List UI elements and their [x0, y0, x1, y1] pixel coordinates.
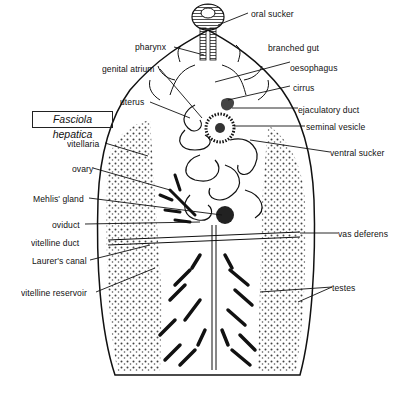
label-mehlis-gland: Mehlis' gland: [33, 193, 84, 204]
label-vas-deferens: vas deferens: [338, 228, 388, 239]
ovary: [160, 175, 195, 222]
pharynx: [200, 28, 206, 60]
label-vitellaria: vitellaria: [67, 138, 99, 149]
label-ventral-sucker: ventral sucker: [330, 147, 384, 158]
label-cirrus: cirrus: [293, 82, 314, 93]
label-ejaculatory-duct: ejaculatory duct: [298, 104, 359, 115]
label-ovary: ovary: [72, 163, 93, 174]
label-testes: testes: [332, 282, 355, 293]
label-genital-atrium: genital atrium: [102, 63, 155, 74]
label-vitelline-duct: vitelline duct: [31, 237, 79, 248]
species-title: Fasciola hepatica: [32, 111, 113, 128]
label-vitelline-reservoir: vitelline reservoir: [21, 287, 87, 298]
label-oesophagus: oesophagus: [290, 62, 338, 73]
vitellaria-right: [258, 125, 306, 372]
label-pharynx: pharynx: [135, 41, 166, 52]
label-oviduct: oviduct: [52, 219, 80, 230]
label-branched-gut: branched gut: [268, 42, 319, 53]
testes: [160, 255, 255, 365]
cirrus: [221, 98, 234, 110]
label-uterus: uterus: [120, 96, 144, 107]
fasciola-hepatica-diagram: Fasciola hepatica oral sucker pharynx br…: [0, 0, 415, 400]
vitellaria-left: [106, 120, 162, 372]
label-laurers-canal: Laurer's canal: [32, 255, 87, 266]
label-oral-sucker: oral sucker: [251, 8, 294, 19]
label-seminal-vesicle: seminal vesicle: [306, 121, 365, 132]
uterus: [180, 105, 262, 220]
